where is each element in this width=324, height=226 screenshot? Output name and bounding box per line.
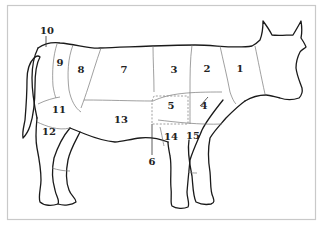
label-cut-1: 1 [237,63,244,74]
label-cut-3: 3 [171,64,178,75]
label-cut-5: 5 [168,100,175,111]
cattle-cuts-diagram: 1 2 3 4 5 6 7 8 9 10 11 12 13 14 15 [0,0,324,226]
label-cut-10: 10 [40,25,54,36]
label-cut-14: 14 [164,131,178,142]
label-cut-13: 13 [114,114,128,125]
label-cut-9: 9 [57,57,64,68]
label-cut-7: 7 [121,64,128,75]
label-cut-15: 15 [186,130,200,141]
label-cut-12: 12 [42,126,56,137]
label-cut-4: 4 [201,100,208,111]
label-cut-2: 2 [204,63,211,74]
label-cut-6: 6 [149,156,156,167]
label-cut-8: 8 [78,64,85,75]
label-cut-11: 11 [52,104,66,115]
